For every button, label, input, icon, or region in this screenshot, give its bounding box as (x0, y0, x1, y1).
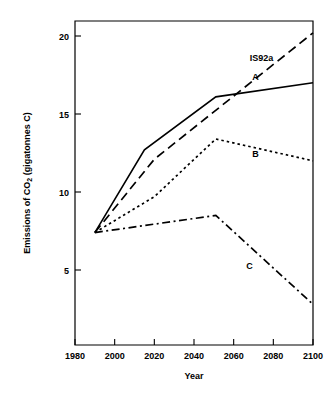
x-tick-label: 2080 (263, 351, 283, 361)
y-axis-title: Emissions of CO2 (gigatonnes C) (22, 112, 33, 253)
x-tick-label: 2040 (184, 351, 204, 361)
series-label-a: A (252, 72, 259, 82)
x-tick-label: 2020 (144, 351, 164, 361)
x-tick-label: 1980 (65, 351, 85, 361)
x-tick-label: 2000 (105, 351, 125, 361)
x-axis-title: Year (184, 371, 204, 381)
y-axis-title-prefix: Emissions of CO (22, 182, 32, 254)
series-label-is92a: IS92a (250, 53, 275, 63)
chart-figure: 5101520 1980200020202040206020802100 IS9… (0, 0, 335, 396)
series-label-c: C (246, 261, 253, 271)
y-axis-title-suffix: (gigatonnes C) (22, 112, 32, 178)
y-tick-label: 15 (59, 110, 69, 120)
y-tick-label: 20 (59, 32, 69, 42)
y-tick-label: 5 (64, 266, 69, 276)
x-tick-label: 2100 (303, 351, 323, 361)
y-tick-label: 10 (59, 188, 69, 198)
svg-text:Emissions of CO2 (gigatonnes C: Emissions of CO2 (gigatonnes C) (22, 112, 33, 253)
chart-background (0, 0, 335, 396)
co2-emissions-line-chart: 5101520 1980200020202040206020802100 IS9… (0, 0, 335, 396)
series-label-b: B (252, 149, 259, 159)
x-tick-label: 2060 (224, 351, 244, 361)
